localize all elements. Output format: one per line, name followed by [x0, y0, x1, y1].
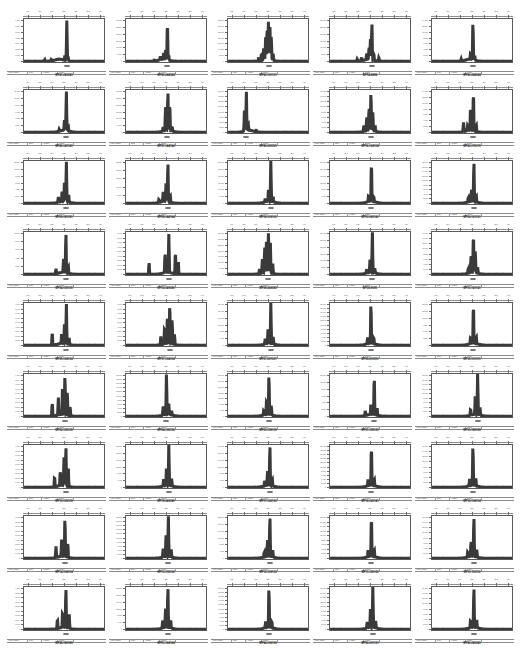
electropherogram-panel[interactable]: 10015020025030035040020,00018,00016,0001… — [108, 506, 210, 577]
called-allele-marker[interactable] — [267, 491, 272, 494]
plot-area[interactable] — [329, 444, 411, 489]
electropherogram-panel[interactable]: 10015020025030035040012,00010,0008,0006,… — [312, 364, 414, 435]
plot-area[interactable] — [227, 515, 309, 560]
called-allele-marker[interactable] — [266, 633, 271, 636]
plot-area[interactable] — [431, 586, 513, 631]
electropherogram-panel[interactable]: 10015020025030035040022,00020,00016,0001… — [108, 577, 210, 648]
electropherogram-panel[interactable]: 10015020025030035040030,00025,00020,0001… — [108, 80, 210, 151]
electropherogram-panel[interactable]: 10015020025030035040012,00010,0008,0006,… — [6, 80, 108, 151]
called-allele-marker[interactable] — [165, 633, 170, 636]
electropherogram-panel[interactable]: 1001502002503003504009,0008,0007,0006,00… — [6, 293, 108, 364]
called-allele-marker[interactable] — [369, 562, 374, 565]
called-allele-marker[interactable] — [164, 420, 169, 423]
plot-area[interactable] — [431, 444, 513, 489]
electropherogram-panel[interactable]: 10015020025030035040020,00018,00015,0001… — [210, 80, 312, 151]
plot-area[interactable] — [23, 89, 105, 134]
called-allele-marker[interactable] — [63, 278, 68, 281]
electropherogram-panel[interactable]: 1001502002503003504009,0008,0007,0006,00… — [6, 506, 108, 577]
called-allele-marker[interactable] — [64, 207, 69, 210]
plot-area[interactable] — [329, 18, 411, 63]
called-allele-marker[interactable] — [64, 349, 69, 352]
called-allele-marker[interactable] — [471, 633, 476, 636]
plot-area[interactable] — [227, 444, 309, 489]
electropherogram-panel[interactable]: 10015020025030035040016,00014,00012,0001… — [414, 222, 516, 293]
plot-area[interactable] — [125, 444, 207, 489]
electropherogram-panel[interactable]: 10015020025030035040014,00012,00010,0008… — [414, 9, 516, 80]
plot-area[interactable] — [227, 586, 309, 631]
called-allele-marker[interactable] — [266, 65, 271, 68]
electropherogram-panel[interactable]: 10015020025030035040018,00016,00014,0001… — [312, 506, 414, 577]
called-allele-marker[interactable] — [471, 562, 476, 565]
called-allele-marker[interactable] — [471, 349, 476, 352]
plot-area[interactable] — [125, 89, 207, 134]
called-allele-marker[interactable] — [471, 278, 476, 281]
called-allele-marker[interactable] — [268, 349, 273, 352]
plot-area[interactable] — [227, 373, 309, 418]
plot-area[interactable] — [329, 515, 411, 560]
plot-area[interactable] — [431, 18, 513, 63]
plot-area[interactable] — [227, 160, 309, 205]
plot-area[interactable] — [329, 586, 411, 631]
electropherogram-panel[interactable]: 10015020025030035040018,00016,00014,0001… — [414, 364, 516, 435]
called-allele-marker[interactable] — [470, 65, 475, 68]
electropherogram-panel[interactable]: 10015020025030035040016,00014,00012,0001… — [414, 435, 516, 506]
electropherogram-panel[interactable]: 10015020025030035040035,00030,00025,0002… — [210, 222, 312, 293]
plot-area[interactable] — [431, 231, 513, 276]
plot-area[interactable] — [431, 160, 513, 205]
called-allele-marker[interactable] — [64, 65, 69, 68]
plot-area[interactable] — [23, 586, 105, 631]
plot-area[interactable] — [23, 302, 105, 347]
plot-area[interactable] — [125, 160, 207, 205]
plot-area[interactable] — [227, 18, 309, 63]
called-allele-marker[interactable] — [243, 136, 248, 139]
plot-area[interactable] — [125, 302, 207, 347]
electropherogram-panel[interactable]: 10015020025030035040026,00024,00020,0001… — [210, 364, 312, 435]
plot-area[interactable] — [431, 89, 513, 134]
called-allele-marker[interactable] — [267, 562, 272, 565]
plot-area[interactable] — [431, 373, 513, 418]
electropherogram-panel[interactable]: 10015020025030035040020,00018,00016,0001… — [312, 293, 414, 364]
electropherogram-panel[interactable]: 10015020025030035040035,00030,00025,0002… — [210, 9, 312, 80]
plot-area[interactable] — [227, 302, 309, 347]
called-allele-marker[interactable] — [368, 349, 373, 352]
plot-area[interactable] — [329, 89, 411, 134]
electropherogram-panel[interactable]: 10015020025030035040030,00025,00020,0001… — [210, 151, 312, 222]
called-allele-marker[interactable] — [165, 207, 170, 210]
plot-area[interactable] — [125, 373, 207, 418]
plot-area[interactable] — [23, 160, 105, 205]
called-allele-marker[interactable] — [63, 491, 68, 494]
called-allele-marker[interactable] — [63, 633, 68, 636]
electropherogram-panel[interactable]: 10015020025030035040020,00018,00016,0001… — [108, 364, 210, 435]
electropherogram-panel[interactable]: 10015020025030035040010,0008,0006,0004,0… — [6, 222, 108, 293]
electropherogram-panel[interactable]: 10015020025030035040016,00014,00012,0001… — [414, 577, 516, 648]
plot-area[interactable] — [329, 373, 411, 418]
plot-area[interactable] — [23, 373, 105, 418]
electropherogram-panel[interactable]: 10015020025030035040024,00020,00016,0001… — [210, 435, 312, 506]
called-allele-marker[interactable] — [369, 491, 374, 494]
called-allele-marker[interactable] — [165, 65, 170, 68]
electropherogram-panel[interactable]: 1001502002503003504009,0008,0007,0006,00… — [108, 293, 210, 364]
plot-area[interactable] — [329, 160, 411, 205]
plot-area[interactable] — [125, 586, 207, 631]
electropherogram-panel[interactable]: 1001502002503003504009,0008,0007,0006,00… — [108, 222, 210, 293]
electropherogram-panel[interactable]: 10015020025030035040020,00018,00016,0001… — [312, 435, 414, 506]
electropherogram-panel[interactable]: 10015020025030035040030,00025,00020,0001… — [312, 9, 414, 80]
electropherogram-panel[interactable]: 10015020025030035040022,00020,00016,0001… — [210, 506, 312, 577]
called-allele-marker[interactable] — [471, 207, 476, 210]
electropherogram-panel[interactable]: 10015020025030035040022,00020,00016,0001… — [108, 435, 210, 506]
electropherogram-panel[interactable]: 10015020025030035040014,00012,00010,0008… — [414, 80, 516, 151]
electropherogram-panel[interactable]: 10015020025030035040018,00016,00014,0001… — [414, 151, 516, 222]
called-allele-marker[interactable] — [368, 136, 373, 139]
plot-area[interactable] — [23, 444, 105, 489]
electropherogram-panel[interactable]: 10015020025030035040024,00020,00016,0001… — [312, 151, 414, 222]
plot-area[interactable] — [329, 231, 411, 276]
called-allele-marker[interactable] — [166, 491, 171, 494]
called-allele-marker[interactable] — [470, 491, 475, 494]
plot-area[interactable] — [125, 515, 207, 560]
called-allele-marker[interactable] — [62, 420, 67, 423]
electropherogram-panel[interactable]: 1001502002503003504009,0008,0007,0006,00… — [6, 435, 108, 506]
electropherogram-panel[interactable]: 10015020025030035040018,00016,00014,0001… — [312, 577, 414, 648]
plot-area[interactable] — [23, 515, 105, 560]
called-allele-marker[interactable] — [475, 420, 480, 423]
electropherogram-panel[interactable]: 10015020025030035040030,00025,00020,0001… — [108, 9, 210, 80]
